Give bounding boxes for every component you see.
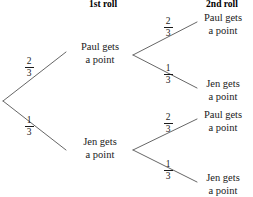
fraction-numerator: 2	[160, 16, 176, 26]
node-label-line2: a point	[194, 25, 252, 38]
probability-label-jen-paul: 2 3	[160, 112, 176, 134]
fraction-denominator: 3	[160, 124, 176, 134]
node-label-line1: Jen gets	[194, 172, 252, 185]
node-label-line2: a point	[194, 185, 252, 197]
node-label-line2: a point	[194, 91, 252, 104]
probability-label-paul-jen: 1 3	[160, 63, 176, 85]
fraction-numerator: 2	[21, 56, 37, 66]
node-label-line1: Jen gets	[194, 78, 252, 91]
node-label-line2: a point	[194, 122, 252, 135]
fraction-denominator: 3	[160, 75, 176, 85]
probability-label-jen-jen: 1 3	[160, 159, 176, 181]
leaf-paul-then-paul: Paul gets a point	[194, 12, 252, 37]
leaf-paul-then-jen: Jen gets a point	[194, 78, 252, 103]
node-label-line1: Paul gets	[194, 12, 252, 25]
fraction-denominator: 3	[21, 68, 37, 78]
node-label-line2: a point	[69, 54, 131, 67]
probability-label-paul-paul: 2 3	[160, 16, 176, 38]
fraction-denominator: 3	[160, 28, 176, 38]
header-second-roll: 2nd roll	[192, 0, 252, 9]
node-label-line2: a point	[69, 149, 131, 162]
node-first-roll-jen: Jen gets a point	[69, 136, 131, 161]
node-label-line1: Jen gets	[69, 136, 131, 149]
leaf-jen-then-paul: Paul gets a point	[194, 109, 252, 134]
fraction-numerator: 2	[160, 112, 176, 122]
probability-label-root-paul: 2 3	[21, 56, 37, 78]
probability-tree-diagram: 1st roll 2nd roll 2 3 1 3 Paul gets a po…	[0, 0, 253, 196]
fraction-numerator: 1	[21, 115, 37, 125]
fraction-numerator: 1	[160, 63, 176, 73]
node-first-roll-paul: Paul gets a point	[69, 41, 131, 66]
fraction-denominator: 3	[21, 127, 37, 137]
node-label-line1: Paul gets	[194, 109, 252, 122]
leaf-jen-then-jen: Jen gets a point	[194, 172, 252, 196]
fraction-numerator: 1	[160, 159, 176, 169]
node-label-line1: Paul gets	[69, 41, 131, 54]
fraction-denominator: 3	[160, 171, 176, 181]
probability-label-root-jen: 1 3	[21, 115, 37, 137]
header-first-roll: 1st roll	[73, 0, 133, 9]
